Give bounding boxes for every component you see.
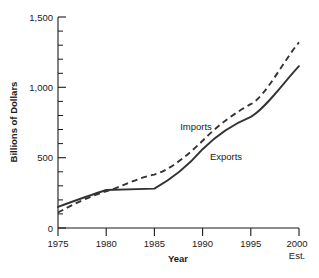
y-tick-label-1000: 1,000 [29, 82, 53, 93]
line-chart: 1,500 1,000 500 0 1975 1980 1985 1990 19… [0, 0, 319, 278]
y-axis-title: Billions of Dollars [8, 82, 19, 163]
x-tick-label-2000: 2000 [286, 238, 307, 249]
x-tick-label-1990: 1990 [192, 238, 213, 249]
series-label-imports: Imports [180, 121, 212, 132]
figure-caption-clipped [8, 270, 308, 278]
x-tick-label-1980: 1980 [96, 238, 117, 249]
y-tick-label-500: 500 [37, 152, 53, 163]
series-label-exports: Exports [210, 151, 242, 162]
x-axis-ticks [58, 228, 299, 236]
estimate-note: Est. [289, 250, 305, 261]
y-axis-minor-ticks [58, 31, 63, 214]
x-tick-label-1975: 1975 [47, 238, 68, 249]
series-exports-line [58, 66, 299, 207]
y-tick-label-0: 0 [48, 223, 53, 234]
x-tick-label-1995: 1995 [240, 238, 261, 249]
x-tick-label-1985: 1985 [144, 238, 165, 249]
y-axis-major-ticks [58, 17, 66, 228]
x-axis-title: Year [168, 253, 188, 264]
series-imports-line [58, 42, 299, 212]
y-tick-label-1500: 1,500 [29, 12, 53, 23]
chart-figure: 1,500 1,000 500 0 1975 1980 1985 1990 19… [0, 0, 319, 278]
